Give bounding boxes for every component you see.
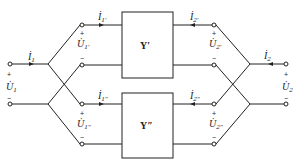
svg-text:+: + — [80, 110, 84, 117]
svg-text:−: − — [80, 55, 84, 62]
label-u1: U̇1 — [6, 81, 17, 94]
network-y-double-prime-label: Y″ — [140, 120, 153, 131]
label-i2-double-prime: İ2″ — [189, 90, 200, 103]
label-i1: İ1 — [27, 51, 35, 64]
terminal-1-plus — [8, 62, 12, 66]
terminal-2-minus — [284, 102, 288, 106]
label-i1-double-prime: İ1″ — [97, 90, 108, 103]
svg-text:−: − — [80, 134, 84, 141]
svg-text:−: − — [212, 134, 216, 141]
svg-text:+: + — [284, 71, 288, 78]
svg-text:−: − — [212, 55, 216, 62]
label-i1-prime: İ1′ — [97, 11, 107, 24]
label-u1-prime: U̇1′ — [77, 38, 90, 51]
label-i2: İ2 — [263, 50, 271, 63]
terminal-2-plus — [284, 62, 288, 66]
label-u2-prime: U̇2′ — [209, 38, 222, 51]
svg-text:−: − — [7, 95, 11, 102]
svg-text:+: + — [212, 110, 216, 117]
svg-text:+: + — [212, 30, 216, 37]
label-u2: U̇2 — [282, 81, 293, 94]
label-i2-prime: İ2′ — [189, 11, 199, 24]
label-u1-double-prime: U̇1″ — [77, 118, 91, 131]
svg-text:+: + — [7, 71, 11, 78]
circuit-diagram: Y′ Y″ İ1 + U̇1 − İ1′ + U̇1′ − İ1″ + — [0, 0, 296, 161]
svg-text:−: − — [284, 95, 288, 102]
label-u2-double-prime: U̇2″ — [209, 118, 223, 131]
terminal-1-minus — [8, 102, 12, 106]
network-y-prime-label: Y′ — [140, 40, 150, 51]
svg-text:+: + — [80, 30, 84, 37]
